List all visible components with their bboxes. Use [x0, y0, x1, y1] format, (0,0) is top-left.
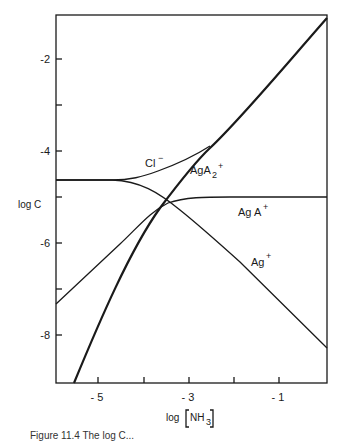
svg-text:AgA: AgA [190, 164, 211, 176]
series-aga2-plus-curve [74, 18, 327, 383]
svg-text:2: 2 [212, 170, 217, 180]
label-aga2-plus: AgA 2 + [190, 161, 223, 180]
svg-text:log: log [166, 412, 179, 423]
svg-text:3: 3 [206, 417, 211, 427]
y-axis-title: log C [18, 199, 41, 210]
y-tick-label: -8 [40, 329, 50, 341]
svg-text:Ag A: Ag A [238, 206, 262, 218]
svg-text:+: + [266, 251, 271, 261]
y-tick-label: -4 [40, 145, 50, 157]
x-axis-title: log NH 3 [166, 410, 213, 427]
svg-text:+: + [218, 161, 223, 171]
y-tick-label: -2 [40, 53, 50, 65]
x-tick-label: - 3 [182, 391, 195, 403]
chart: -2 -4 -6 -8 - 5 - 3 - 1 log C log NH 3 C… [0, 0, 343, 441]
series-aga-plus-curve [56, 197, 327, 304]
svg-text:Cl: Cl [145, 157, 155, 169]
label-cl: Cl − [145, 153, 163, 169]
figure-caption: Figure 11.4 The log C... [30, 430, 134, 441]
x-axis-ticks [98, 377, 279, 383]
svg-text:−: − [158, 153, 163, 163]
svg-text:+: + [263, 202, 268, 212]
y-axis-ticks [56, 59, 62, 335]
label-aga-plus: Ag A + [238, 202, 268, 218]
svg-text:Ag: Ag [251, 256, 264, 268]
x-tick-label: - 5 [91, 391, 104, 403]
series-ag-plus-curve [56, 180, 327, 348]
label-ag-plus: Ag + [251, 251, 271, 268]
x-tick-label: - 1 [272, 391, 285, 403]
svg-text:NH: NH [190, 412, 204, 423]
y-tick-label: -6 [40, 237, 50, 249]
